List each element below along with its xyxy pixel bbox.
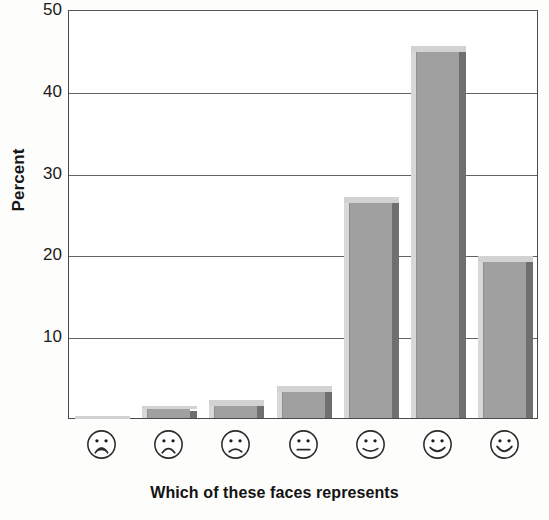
bar-right-shadow (325, 391, 332, 418)
bar-neutral-face[interactable] (277, 386, 332, 418)
bar-top-highlight (209, 400, 264, 406)
slightly-happy-face-icon (355, 429, 386, 460)
bars-layer (69, 11, 537, 418)
x-axis-face-icons (68, 424, 538, 466)
x-tick-very-happy-face (474, 424, 534, 464)
bar-right-shadow (392, 202, 399, 418)
bar-top-highlight (478, 256, 533, 262)
bar-top-highlight (344, 197, 399, 203)
very-happy-face-icon (489, 429, 520, 460)
plot-area (68, 10, 538, 419)
unhappy-face-icon (153, 429, 184, 460)
bar-top-highlight (142, 406, 197, 409)
x-tick-neutral-face (273, 424, 333, 464)
x-tick-happy-face (407, 424, 467, 464)
bar-face (147, 409, 190, 418)
bar-face (416, 51, 459, 418)
y-tick-label-50: 50 (22, 1, 62, 18)
bar-face (214, 405, 257, 418)
neutral-face-icon (288, 429, 319, 460)
x-tick-slightly-unhappy-face (206, 424, 266, 464)
bar-top-highlight (411, 46, 466, 52)
bar-right-shadow (526, 261, 533, 418)
bar-right-shadow (257, 405, 264, 418)
x-axis-title: Which of these faces represents (0, 484, 549, 502)
bar-slightly-happy-face[interactable] (344, 197, 399, 418)
y-tick-label-40: 40 (22, 83, 62, 100)
y-tick-label-30: 30 (22, 165, 62, 182)
bar-chart: Percent 1020304050 Which of these faces … (0, 0, 549, 520)
bar-top-highlight (75, 416, 130, 419)
x-tick-slightly-happy-face (340, 424, 400, 464)
happy-face-icon (422, 429, 453, 460)
bar-right-shadow (190, 411, 197, 418)
bar-unhappy-face[interactable] (142, 406, 197, 418)
bar-right-shadow (459, 51, 466, 418)
bar-very-happy-face[interactable] (478, 256, 533, 418)
bar-slightly-unhappy-face[interactable] (209, 400, 264, 418)
very-unhappy-face-icon (86, 429, 117, 460)
slightly-unhappy-face-icon (220, 429, 251, 460)
x-tick-very-unhappy-face (72, 424, 132, 464)
bar-face (282, 391, 325, 418)
bar-face (483, 261, 526, 418)
bar-face (349, 202, 392, 418)
y-tick-label-20: 20 (22, 246, 62, 263)
x-tick-unhappy-face (139, 424, 199, 464)
bar-top-highlight (277, 386, 332, 392)
y-tick-label-10: 10 (22, 328, 62, 345)
y-axis-tick-labels: 1020304050 (0, 0, 62, 440)
bar-happy-face[interactable] (411, 46, 466, 418)
bar-very-unhappy-face[interactable] (75, 416, 130, 418)
